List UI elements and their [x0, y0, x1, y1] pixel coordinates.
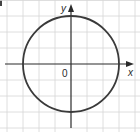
x-axis-label: x	[127, 67, 134, 78]
y-axis-label: y	[60, 3, 67, 14]
origin-label: 0	[62, 68, 68, 79]
coordinate-plane: y x 0	[0, 0, 140, 132]
y-axis-arrow-icon	[68, 4, 74, 12]
